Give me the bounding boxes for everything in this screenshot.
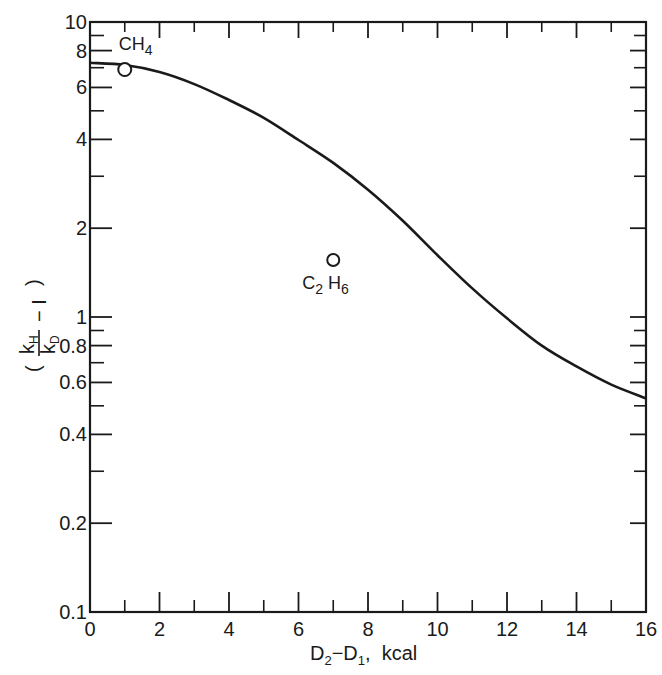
y-tick-label: 1 xyxy=(76,306,87,328)
y-title-right-paren: ) xyxy=(22,279,44,286)
y-tick-label: 6 xyxy=(76,76,87,98)
y-tick-label: 8 xyxy=(76,40,87,62)
ch4-data-point xyxy=(118,63,131,76)
chart: 0246810121416 0.10.20.40.60.81246810 CH4… xyxy=(0,0,662,675)
x-axis-title: D2−D1, kcal xyxy=(310,642,417,668)
x-axis-ticks xyxy=(125,22,612,612)
calculated-curve-line xyxy=(90,63,646,399)
y-tick-label: 0.8 xyxy=(59,335,87,357)
x-tick-label: 10 xyxy=(426,618,448,640)
y-tick-label: 10 xyxy=(65,11,87,33)
x-tick-label: 6 xyxy=(293,618,304,640)
c2h6-label: C2 H6 xyxy=(302,273,349,297)
y-tick-label: 0.6 xyxy=(59,371,87,393)
y-tick-label: 0.4 xyxy=(59,423,87,445)
c2h6-data-point xyxy=(327,254,339,266)
x-tick-label: 4 xyxy=(223,618,234,640)
ch4-label: CH4 xyxy=(119,34,153,58)
y-axis-ticks xyxy=(90,35,646,523)
y-tick-label: 4 xyxy=(76,128,87,150)
y-axis-title: ( kH kD − I ) xyxy=(16,279,62,372)
y-title-left-paren: ( xyxy=(22,365,44,372)
experimental-points: CH4C2 H6 xyxy=(118,34,349,297)
x-tick-label: 12 xyxy=(496,618,518,640)
x-tick-label: 16 xyxy=(635,618,657,640)
x-axis-tick-labels: 0246810121416 xyxy=(84,618,657,640)
y-tick-label: 0.1 xyxy=(59,601,87,623)
y-tick-label: 2 xyxy=(76,217,87,239)
x-tick-label: 8 xyxy=(362,618,373,640)
y-title-minus-one: − I xyxy=(28,299,50,322)
y-axis-tick-labels: 0.10.20.40.60.81246810 xyxy=(59,11,87,623)
plot-frame xyxy=(90,22,646,612)
x-tick-label: 14 xyxy=(565,618,587,640)
plot-border xyxy=(90,22,646,612)
y-tick-label: 0.2 xyxy=(59,512,87,534)
x-tick-label: 2 xyxy=(154,618,165,640)
